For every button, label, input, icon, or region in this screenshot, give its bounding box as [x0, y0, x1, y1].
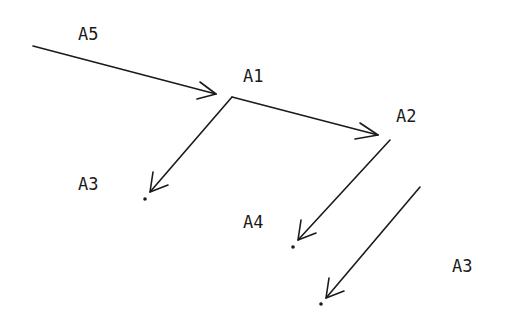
- label-a2: A2: [396, 106, 416, 126]
- arrow-a2-to-a3: [326, 187, 420, 298]
- label-a4: A4: [243, 212, 263, 232]
- diagram-canvas: A5 A1 A2 A3 A4 A3: [0, 0, 506, 318]
- label-a3-left: A3: [78, 174, 98, 194]
- endpoint-dot-a4: [291, 245, 295, 249]
- arrow-a2-to-a4: [298, 140, 390, 240]
- label-a3-right: A3: [452, 256, 472, 276]
- arrow-a1-to-a3: [150, 97, 232, 192]
- endpoint-dot-a3-left: [143, 197, 147, 201]
- endpoint-dot-a3-right: [319, 302, 323, 306]
- label-a1: A1: [243, 66, 263, 86]
- arrow-a5-to-a1: [33, 46, 216, 99]
- arrowhead-icon: [355, 123, 378, 139]
- arrow-a1-to-a2: [232, 97, 378, 139]
- label-a5: A5: [78, 24, 98, 44]
